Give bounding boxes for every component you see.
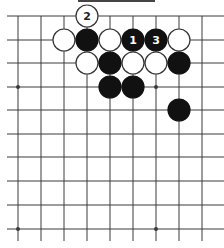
- star-point: [16, 227, 20, 231]
- star-point: [154, 227, 158, 231]
- white-stone: [122, 52, 144, 74]
- white-stone: [53, 29, 75, 51]
- black-stone: [168, 52, 190, 74]
- white-stone: [145, 52, 167, 74]
- move-number-label: 1: [129, 34, 137, 47]
- move-number-label: 2: [83, 10, 91, 23]
- white-stone: [99, 29, 121, 51]
- white-stone: [168, 29, 190, 51]
- white-stone-disc: [168, 29, 190, 51]
- black-stone-disc: [122, 76, 144, 98]
- white-stone-disc: [76, 52, 98, 74]
- black-stone-disc: [99, 52, 121, 74]
- black-stone: [99, 76, 121, 98]
- black-stone: [76, 29, 98, 51]
- white-stone-disc: [145, 52, 167, 74]
- black-stone-disc: [76, 29, 98, 51]
- white-stone: [76, 52, 98, 74]
- move-number-label: 3: [152, 34, 160, 47]
- go-board: 213: [0, 0, 224, 248]
- black-stone-3: 3: [145, 29, 167, 51]
- black-stone-disc: [168, 52, 190, 74]
- black-stone-1: 1: [122, 29, 144, 51]
- black-stone: [99, 52, 121, 74]
- white-stone-disc: [99, 29, 121, 51]
- star-point: [154, 85, 158, 89]
- white-stone-2: 2: [76, 5, 98, 27]
- black-stone: [168, 99, 190, 121]
- black-stone-disc: [99, 76, 121, 98]
- white-stone-disc: [53, 29, 75, 51]
- star-point: [16, 85, 20, 89]
- black-stone: [122, 76, 144, 98]
- black-stone-disc: [168, 99, 190, 121]
- white-stone-disc: [122, 52, 144, 74]
